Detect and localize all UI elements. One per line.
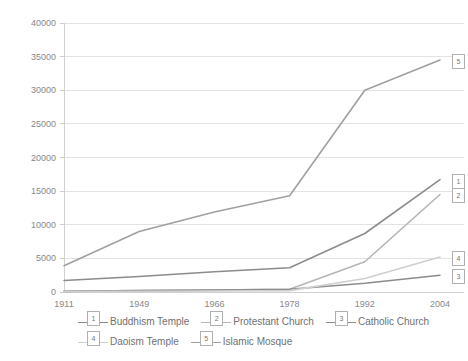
series-line-1 bbox=[64, 180, 440, 281]
y-axis-tick-label: 30000 bbox=[0, 85, 56, 95]
legend-swatch: 1 bbox=[78, 315, 108, 329]
legend-marker-1: 1 bbox=[87, 311, 100, 326]
legend-row: 1Buddhism Temple2Protestant Church3Catho… bbox=[0, 312, 468, 332]
y-axis-tick-label: 5000 bbox=[0, 253, 56, 263]
legend-swatch: 4 bbox=[78, 335, 108, 349]
legend-marker-5: 5 bbox=[200, 331, 213, 346]
x-axis-tick-label: 1966 bbox=[184, 299, 244, 309]
legend-marker-4: 4 bbox=[87, 331, 100, 346]
legend-label: Protestant Church bbox=[233, 316, 314, 328]
series-end-marker-5: 5 bbox=[452, 54, 465, 69]
legend-label: Buddhism Temple bbox=[110, 316, 189, 328]
series-end-marker-4: 4 bbox=[452, 251, 465, 266]
legend-item[interactable]: 3Catholic Church bbox=[326, 315, 429, 329]
legend-swatch: 2 bbox=[201, 315, 231, 329]
series-line-5 bbox=[64, 60, 440, 266]
y-axis-tick-label: 20000 bbox=[0, 153, 56, 163]
legend-row: 4Daoism Temple5Islamic Mosque bbox=[0, 332, 468, 352]
series-end-marker-2: 2 bbox=[452, 188, 465, 203]
legend-label: Daoism Temple bbox=[110, 336, 179, 348]
x-axis-tick-label: 2004 bbox=[410, 299, 468, 309]
gridlines bbox=[64, 23, 464, 292]
legend-item[interactable]: 4Daoism Temple bbox=[78, 335, 179, 349]
y-axis-tick-label: 40000 bbox=[0, 18, 56, 28]
axis-lines bbox=[60, 23, 64, 292]
x-axis-tick-label: 1949 bbox=[109, 299, 169, 309]
series-line-4 bbox=[64, 257, 440, 292]
series-end-marker-1: 1 bbox=[452, 174, 465, 189]
y-axis-tick-label: 15000 bbox=[0, 186, 56, 196]
legend-label: Islamic Mosque bbox=[223, 336, 292, 348]
y-axis-tick-label: 0 bbox=[0, 287, 56, 297]
legend-swatch: 3 bbox=[326, 315, 356, 329]
x-axis-tick-label: 1911 bbox=[34, 299, 94, 309]
legend-marker-3: 3 bbox=[335, 311, 348, 326]
series-lines bbox=[64, 60, 440, 292]
legend-item[interactable]: 2Protestant Church bbox=[201, 315, 314, 329]
y-axis-tick-label: 10000 bbox=[0, 220, 56, 230]
y-axis-tick-label: 35000 bbox=[0, 52, 56, 62]
x-axis-tick-label: 1992 bbox=[335, 299, 395, 309]
legend-item[interactable]: 5Islamic Mosque bbox=[191, 335, 292, 349]
legend-item[interactable]: 1Buddhism Temple bbox=[78, 315, 189, 329]
y-axis-tick-label: 25000 bbox=[0, 119, 56, 129]
series-end-marker-3: 3 bbox=[452, 269, 465, 284]
legend-marker-2: 2 bbox=[210, 311, 223, 326]
chart-legend: 1Buddhism Temple2Protestant Church3Catho… bbox=[0, 312, 468, 352]
line-chart: 0500010000150002000025000300003500040000… bbox=[0, 0, 468, 361]
legend-label: Catholic Church bbox=[358, 316, 429, 328]
x-axis-tick-label: 1978 bbox=[260, 299, 320, 309]
legend-swatch: 5 bbox=[191, 335, 221, 349]
